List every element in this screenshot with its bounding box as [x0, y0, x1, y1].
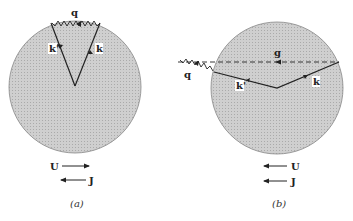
label-J: J — [290, 176, 296, 187]
panel-b: g q k' k U J (b) — [178, 22, 343, 209]
label-k: k — [96, 43, 104, 54]
fermi-sphere-a — [9, 21, 141, 153]
caption-a: (a) — [70, 198, 84, 209]
label-U: U — [50, 161, 59, 172]
label-U: U — [291, 161, 300, 172]
label-q: q — [184, 69, 191, 80]
umklapp-diagram: q k' k U J (a) g q k' k U J (b) — [0, 0, 353, 221]
panel-a: q k' k U J (a) — [9, 7, 141, 209]
label-q: q — [71, 7, 78, 18]
label-k-prime: k' — [236, 80, 246, 91]
label-k: k — [313, 76, 321, 87]
caption-b: (b) — [272, 198, 286, 209]
label-J: J — [88, 175, 94, 186]
label-g: g — [274, 47, 281, 58]
label-k-prime: k' — [49, 43, 59, 54]
